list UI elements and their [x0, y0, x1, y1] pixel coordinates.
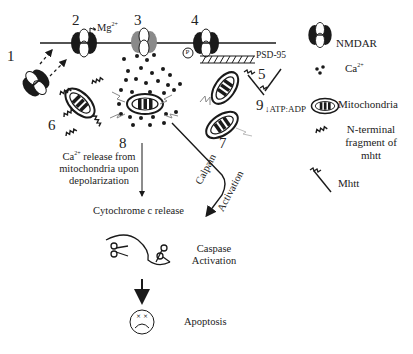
atp-adp-label: ↓ATP:ADP — [265, 104, 306, 114]
legend-mhtt-label: Mhtt — [338, 177, 359, 190]
mitochondrion-8 — [127, 94, 163, 114]
legend-calcium-label: Ca2+ — [345, 62, 364, 75]
apoptosis-label: Apoptosis — [184, 316, 227, 328]
calcium-ions-cluster — [117, 53, 182, 127]
ca-release-label: Ca2+ release from mitochondria upon depo… — [44, 150, 154, 187]
label-3: 3 — [134, 13, 142, 28]
label-7: 7 — [219, 136, 227, 151]
phospho-label: P — [186, 48, 190, 56]
label-9: 9 — [256, 98, 264, 113]
apoptosis-face-icon: × × — [130, 310, 154, 334]
legend-mitochondria-label: Mitochondria — [338, 98, 398, 111]
cytochrome-c-label: Cytochrome c release — [93, 205, 184, 217]
label-1: 1 — [7, 49, 15, 64]
legend-mhtt-icon — [310, 168, 331, 192]
psd95-scaffold-icon — [200, 56, 255, 63]
caspase-activation-label: Caspase Activation — [184, 243, 244, 267]
legend-n-terminal-icon — [315, 126, 327, 133]
label-2: 2 — [72, 13, 80, 28]
caspase-scissors-icon — [106, 235, 170, 265]
legend-nmdar-icon — [308, 22, 331, 47]
nmdar-internalized-icon — [17, 64, 55, 102]
nmdar-phosphorylated-icon — [193, 29, 219, 57]
nmdar-active-icon — [131, 28, 157, 56]
legend-mitochondria-icon — [312, 99, 339, 114]
nmdar-mg-blocked-icon — [71, 29, 97, 57]
mg-label: Mg2+ — [97, 21, 118, 34]
label-4: 4 — [191, 13, 199, 28]
label-8: 8 — [119, 136, 127, 151]
svg-text:×: × — [143, 312, 148, 319]
label-5: 5 — [258, 67, 266, 82]
legend-nmdar-label: NMDAR — [336, 37, 377, 50]
legend-n-terminal-label: N-terminal fragment of mhtt — [336, 123, 406, 163]
mitochondrion-9 — [206, 68, 243, 109]
label-6: 6 — [48, 118, 56, 133]
psd95-label: PSD-95 — [256, 50, 286, 60]
legend-calcium-icon — [315, 65, 325, 75]
svg-text:×: × — [136, 312, 141, 319]
mitochondrion-6 — [60, 83, 100, 123]
